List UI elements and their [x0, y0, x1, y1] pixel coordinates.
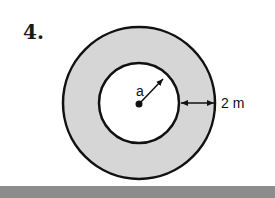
annulus-diagram: a 2 m [0, 0, 275, 198]
bottom-divider-bar [0, 186, 275, 198]
radius-label: a [136, 83, 144, 99]
width-label: 2 m [221, 95, 244, 111]
